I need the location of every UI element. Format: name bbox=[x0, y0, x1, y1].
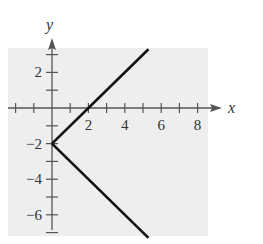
y-tick-label: −4 bbox=[26, 171, 42, 187]
x-tick-label: 8 bbox=[194, 117, 202, 133]
y-tick-label: −2 bbox=[26, 136, 42, 152]
x-axis-label: x bbox=[227, 99, 235, 116]
y-axis-label: y bbox=[44, 16, 54, 34]
y-tick-label: 2 bbox=[35, 64, 43, 80]
x-tick-label: 4 bbox=[121, 117, 129, 133]
x-tick-label: 2 bbox=[85, 117, 93, 133]
chart: 2468 2−2−4−6 x y bbox=[0, 0, 263, 244]
x-tick-label: 6 bbox=[157, 117, 165, 133]
y-tick-label: −6 bbox=[26, 207, 42, 223]
